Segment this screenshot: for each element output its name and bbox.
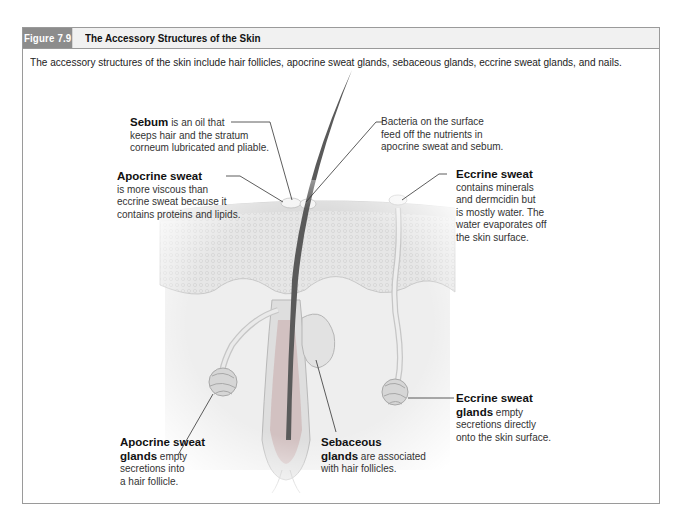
term-eccrine-sweat: Eccrine sweat — [456, 168, 533, 180]
label-eccrine-sweat: Eccrine sweat contains minerals and derm… — [456, 168, 546, 244]
term-sebum: Sebum — [130, 116, 168, 128]
label-apocrine-sweat-glands: Apocrine sweat glands empty secretions i… — [120, 436, 205, 488]
label-sebaceous-glands: Sebaceous glands are associated with hai… — [321, 436, 426, 476]
label-eccrine-sweat-glands: Eccrine sweat glands empty secretions di… — [456, 392, 551, 444]
label-sebum: Sebum is an oil that keeps hair and the … — [130, 116, 269, 155]
label-apocrine-sweat: Apocrine sweat is more viscous than eccr… — [117, 170, 240, 221]
label-bacteria: Bacteria on the surface feed off the nut… — [381, 116, 503, 154]
term-apocrine-sweat: Apocrine sweat — [117, 170, 202, 182]
